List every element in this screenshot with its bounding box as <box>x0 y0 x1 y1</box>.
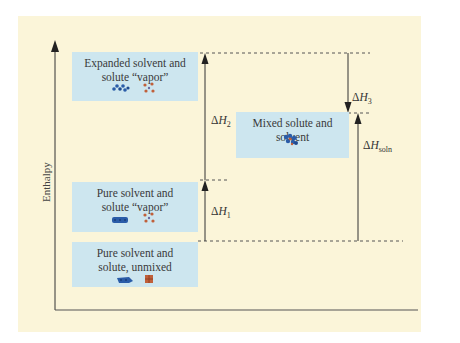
mixed-solution-icon <box>283 133 299 146</box>
solute-vapor-icon <box>142 82 156 94</box>
solute-vapor-icon <box>142 212 156 224</box>
arrow-dH1 <box>202 180 209 241</box>
level-label-line1: Pure solvent and <box>72 182 198 200</box>
level-label-line2: solute “vapor” <box>72 70 198 84</box>
enthalpy-diagram-lines <box>0 0 460 343</box>
level-box-mixed: Mixed solute and solvent <box>236 112 349 158</box>
level-label-line1: Pure solvent and <box>72 242 198 260</box>
solvent-pure-icon <box>112 216 128 224</box>
arrow-dH3 <box>345 53 352 113</box>
arrow-dHsoln <box>355 113 362 241</box>
label-dHsoln: ΔHsoln <box>363 139 392 154</box>
arrow-dH2 <box>202 53 209 180</box>
solvent-pure-icon <box>117 276 133 284</box>
level-label-line2: solute “vapor” <box>72 200 198 214</box>
level-box-pure-vapor: Pure solvent and solute “vapor” <box>72 182 198 232</box>
label-dH1: ΔH1 <box>211 205 231 220</box>
label-dH3: ΔH3 <box>352 91 372 106</box>
solute-solid-icon <box>145 275 153 283</box>
y-axis-label: Enthalpy <box>40 162 52 202</box>
level-box-expanded: Expanded solvent and solute “vapor” <box>72 52 198 101</box>
level-label-line1: Expanded solvent and <box>72 52 198 70</box>
level-label-line2: solute, unmixed <box>72 260 198 274</box>
level-box-unmixed: Pure solvent and solute, unmixed <box>72 242 198 287</box>
solvent-expanded-icon <box>112 83 130 93</box>
label-dH2: ΔH2 <box>211 114 231 129</box>
y-axis <box>51 40 59 310</box>
